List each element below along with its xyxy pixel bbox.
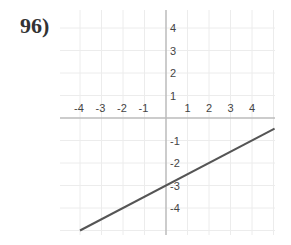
y-tick-label: -1 [170,135,180,147]
y-tick-label: 4 [170,22,176,34]
y-tick-label: 2 [170,67,176,79]
y-tick-label: -2 [170,157,180,169]
x-tick-label: 2 [206,102,212,114]
x-tick-label: 1 [185,102,191,114]
x-tick-label: -4 [74,102,84,114]
y-tick-label: 1 [170,90,176,102]
y-tick-label: 3 [170,45,176,57]
x-tick-label: 3 [228,102,234,114]
x-tick-label: -3 [96,102,106,114]
x-tick-label: -1 [139,102,149,114]
y-tick-label: -4 [170,202,180,214]
coordinate-plane: -4-3-2-112344321-1-2-3-4 [0,0,291,245]
x-tick-label: 4 [249,102,255,114]
x-tick-label: -2 [117,102,127,114]
